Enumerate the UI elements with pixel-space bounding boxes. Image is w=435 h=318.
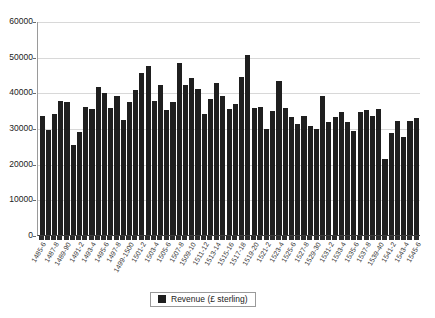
x-axis-tick bbox=[101, 236, 106, 240]
y-axis-tick-label: 30000 bbox=[0, 124, 33, 133]
x-axis-tick bbox=[89, 236, 94, 240]
x-axis-tick bbox=[201, 236, 206, 240]
x-axis-label-slot: 1533-4 bbox=[339, 241, 344, 287]
x-axis-tick bbox=[182, 236, 187, 240]
x-axis-tick bbox=[389, 236, 394, 240]
x-axis-tick bbox=[314, 236, 319, 240]
bar bbox=[258, 107, 263, 235]
x-axis-label-slot: 1495-6 bbox=[101, 241, 106, 287]
x-axis-tick bbox=[376, 236, 381, 240]
bar bbox=[333, 117, 338, 235]
bar bbox=[320, 96, 325, 235]
bar bbox=[395, 121, 400, 235]
y-axis-tick-label: 0 bbox=[0, 231, 33, 240]
bar bbox=[139, 73, 144, 235]
bar bbox=[214, 83, 219, 235]
bar bbox=[58, 101, 63, 235]
x-axis-tick bbox=[251, 236, 256, 240]
bar bbox=[170, 102, 175, 235]
x-axis-tick bbox=[407, 236, 412, 240]
x-axis-label-slot: 1501-2 bbox=[139, 241, 144, 287]
x-axis-tick bbox=[70, 236, 75, 240]
y-axis-tick-label: 10000 bbox=[0, 195, 33, 204]
bar bbox=[283, 108, 288, 235]
bar bbox=[301, 116, 306, 235]
x-axis-tick bbox=[82, 236, 87, 240]
x-axis-tick bbox=[370, 236, 375, 240]
x-axis-tick bbox=[414, 236, 419, 240]
x-axis-label-slot: 1529-30 bbox=[314, 241, 319, 287]
bar bbox=[358, 112, 363, 235]
x-axis-label-slot: 1485-6 bbox=[39, 241, 44, 287]
bar-series bbox=[38, 22, 420, 235]
y-axis-tick bbox=[33, 200, 36, 201]
bar bbox=[252, 108, 257, 235]
y-axis-tick bbox=[33, 129, 36, 130]
y-axis-tick-label: 60000 bbox=[0, 17, 33, 26]
x-axis-label-slot: 1505-6 bbox=[164, 241, 169, 287]
x-axis-label-slot: 1493-4 bbox=[89, 241, 94, 287]
x-axis-tick bbox=[257, 236, 262, 240]
x-axis-tick bbox=[189, 236, 194, 240]
x-axis-tick bbox=[401, 236, 406, 240]
bar bbox=[401, 137, 406, 235]
x-axis-tick bbox=[176, 236, 181, 240]
bar bbox=[202, 114, 207, 235]
y-axis-tick bbox=[33, 93, 36, 94]
x-axis-label-slot: 1521-2 bbox=[264, 241, 269, 287]
bar bbox=[239, 77, 244, 235]
y-axis-tick bbox=[33, 165, 36, 166]
x-axis-tick bbox=[245, 236, 250, 240]
bar bbox=[127, 102, 132, 235]
y-axis-tick-label: 50000 bbox=[0, 53, 33, 62]
x-axis-tick bbox=[132, 236, 137, 240]
bar bbox=[189, 78, 194, 235]
bar bbox=[227, 109, 232, 235]
x-axis-labels: 1485-61487-81489-901491-21493-41495-6149… bbox=[37, 241, 420, 287]
legend-swatch-revenue bbox=[158, 295, 166, 303]
bar bbox=[152, 101, 157, 235]
x-axis-tick bbox=[107, 236, 112, 240]
x-axis-tick bbox=[39, 236, 44, 240]
bar bbox=[220, 96, 225, 235]
x-axis-label-slot: 1535-6 bbox=[351, 241, 356, 287]
bar bbox=[264, 129, 269, 235]
bar bbox=[83, 107, 88, 235]
y-axis-tick bbox=[33, 236, 36, 237]
bar bbox=[133, 90, 138, 235]
bar bbox=[345, 122, 350, 235]
bar bbox=[158, 85, 163, 236]
x-axis-label-slot: 1545-6 bbox=[414, 241, 419, 287]
bar bbox=[71, 145, 76, 235]
x-axis-label-slot: 1491-2 bbox=[76, 241, 81, 287]
bar bbox=[414, 118, 419, 235]
x-axis-tick bbox=[239, 236, 244, 240]
x-axis-tick bbox=[95, 236, 100, 240]
y-axis-tick bbox=[33, 22, 36, 23]
bar bbox=[146, 66, 151, 235]
x-axis-label-slot: 1519-20 bbox=[251, 241, 256, 287]
x-axis-tick bbox=[307, 236, 312, 240]
bar bbox=[308, 126, 313, 235]
bar bbox=[382, 159, 387, 235]
x-axis-label-slot: 1541-2 bbox=[389, 241, 394, 287]
x-axis-tick bbox=[282, 236, 287, 240]
legend-label-revenue: Revenue (£ sterling) bbox=[171, 295, 248, 304]
bar bbox=[389, 133, 394, 235]
bar bbox=[40, 116, 45, 235]
bar bbox=[77, 132, 82, 235]
y-axis: 0100002000030000400005000060000 bbox=[0, 0, 33, 260]
x-axis-label-slot: 1503-4 bbox=[151, 241, 156, 287]
bar bbox=[233, 104, 238, 235]
bar bbox=[364, 110, 369, 235]
x-axis-tick bbox=[207, 236, 212, 240]
bar bbox=[108, 108, 113, 235]
x-axis-tick bbox=[332, 236, 337, 240]
legend: Revenue (£ sterling) bbox=[150, 292, 256, 307]
bar bbox=[245, 55, 250, 235]
bar bbox=[407, 121, 412, 235]
x-axis-tick bbox=[295, 236, 300, 240]
y-axis-tick-label: 20000 bbox=[0, 160, 33, 169]
x-axis-tick bbox=[339, 236, 344, 240]
bar bbox=[326, 122, 331, 235]
